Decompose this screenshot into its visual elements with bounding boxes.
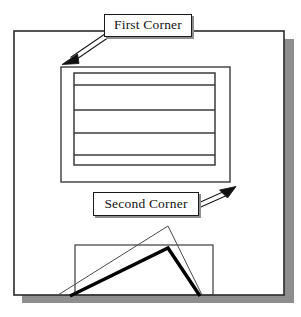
- callout-first-corner-label: First Corner: [114, 18, 182, 33]
- callout-second-corner: Second Corner: [93, 192, 199, 216]
- diagram-canvas: [0, 0, 301, 317]
- inner-rectangle: [74, 73, 215, 165]
- figure-container: First Corner Second Corner: [0, 0, 301, 317]
- callout-second-corner-label: Second Corner: [104, 197, 187, 212]
- callout-first-corner: First Corner: [104, 14, 192, 37]
